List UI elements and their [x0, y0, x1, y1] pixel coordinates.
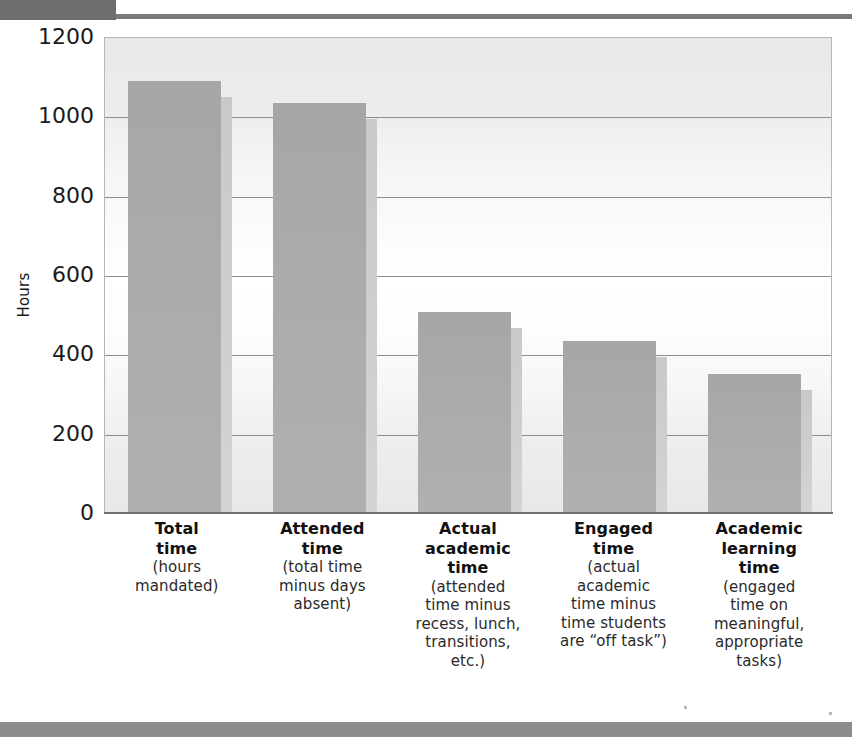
page-speck — [684, 706, 687, 709]
bar-slot-4 — [541, 38, 686, 512]
category-subtitle-5: (engagedtime onmeaningful,appropriatetas… — [692, 578, 826, 671]
y-axis-tick-labels: 120010008006004002000 — [20, 24, 94, 544]
bar-slot-2 — [250, 38, 395, 512]
bar-1[interactable] — [128, 81, 221, 512]
y-tick-400: 400 — [36, 343, 94, 365]
category-title-4: Engagedtime — [547, 519, 681, 558]
bar-slot-5 — [686, 38, 831, 512]
category-subtitle-2: (total timeminus daysabsent) — [256, 558, 390, 614]
header-tab-block — [0, 0, 116, 20]
category-subtitle-3: (attendedtime minusrecess, lunch,transit… — [401, 578, 535, 671]
bar-slot-3 — [395, 38, 540, 512]
bar-shadow-2 — [366, 119, 377, 512]
category-subtitle-1: (hoursmandated) — [110, 558, 244, 595]
bar-slot-1 — [105, 38, 250, 512]
y-tick-1000: 1000 — [36, 105, 94, 127]
bar-shadow-5 — [801, 390, 812, 512]
bar-series — [105, 38, 831, 512]
page-speck — [829, 712, 832, 715]
page-header-strip — [0, 0, 852, 24]
category-subtitle-4: (actualacademictime minustime studentsar… — [547, 558, 681, 651]
y-tick-1200: 1200 — [36, 26, 94, 48]
category-label-2: Attendedtime(total timeminus daysabsent) — [250, 519, 396, 671]
category-title-2: Attendedtime — [256, 519, 390, 558]
y-tick-200: 200 — [36, 423, 94, 445]
category-title-1: Totaltime — [110, 519, 244, 558]
category-title-5: Academiclearningtime — [692, 519, 826, 578]
plot-area — [104, 37, 832, 513]
bar-3[interactable] — [418, 312, 511, 512]
bar-5[interactable] — [708, 374, 801, 512]
y-tick-0: 0 — [36, 502, 94, 524]
bar-shadow-4 — [656, 357, 667, 512]
category-label-1: Totaltime(hoursmandated) — [104, 519, 250, 671]
header-rule — [116, 14, 852, 19]
y-tick-600: 600 — [36, 264, 94, 286]
x-axis-baseline — [104, 512, 833, 514]
bar-4[interactable] — [563, 341, 656, 512]
x-axis-category-labels: Totaltime(hoursmandated)Attendedtime(tot… — [104, 519, 832, 671]
bar-shadow-3 — [511, 328, 522, 512]
bar-shadow-1 — [221, 97, 232, 512]
y-tick-800: 800 — [36, 185, 94, 207]
category-title-3: Actualacademictime — [401, 519, 535, 578]
page-frame: Hours 120010008006004002000 Totaltime(ho… — [0, 0, 852, 737]
category-label-3: Actualacademictime(attendedtime minusrec… — [395, 519, 541, 671]
bar-2[interactable] — [273, 103, 366, 512]
category-label-5: Academiclearningtime(engagedtime onmeani… — [686, 519, 832, 671]
category-label-4: Engagedtime(actualacademictime minustime… — [541, 519, 687, 671]
page-footer-bar — [0, 722, 852, 737]
bar-chart: Hours 120010008006004002000 Totaltime(ho… — [0, 24, 852, 722]
